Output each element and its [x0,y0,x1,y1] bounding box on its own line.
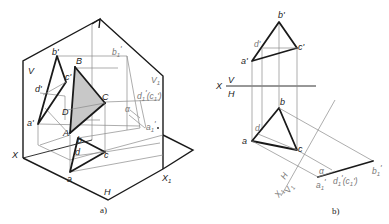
label-H-b: H [228,89,235,99]
label-b-prime-b: b' [278,10,285,20]
label-d-b: d [255,123,260,133]
label-d-prime-b: d' [254,39,261,49]
label-c-prime: c' [65,72,72,82]
label-V-b: V [228,75,235,85]
label-b: b [77,135,82,145]
label-X1: X1 [161,173,171,184]
label-X-b: X [215,81,223,91]
label-C: C [102,92,109,102]
label-d-prime: d' [35,84,42,94]
label-B: B [76,56,82,66]
label-b-prime: b' [52,47,59,57]
label-a: a [67,174,72,184]
label-V1: V1 [151,75,160,86]
label-b-b: b [280,97,285,107]
caption-b: b) [332,206,340,216]
label-a1-prime-b: a1' [316,177,326,191]
projection-diagram: V b' B c' d' C a' D A b d c a X H X1 V1 … [0,0,389,224]
v1-edge-line [318,161,373,177]
label-c: c [104,150,109,160]
label-d1c1: d1'(c1') [137,88,162,102]
label-A: A [62,128,69,138]
label-a-b: a [242,136,247,146]
label-a1-prime: a1' [146,119,156,133]
caption-a: a) [100,205,107,215]
triangle-abc-face [70,67,105,133]
label-v-plane: V [28,66,35,76]
plane-corner [92,19,100,28]
label-a-prime: a' [27,118,34,128]
proj-a1 [252,141,318,177]
label-H-x1: H [278,170,290,181]
figure-a: V b' B c' d' C a' D A b d c a X H X1 V1 … [11,19,193,215]
label-H: H [104,187,111,197]
label-a-prime-b: a' [241,56,248,66]
label-d1c1-b: d1'(c1') [333,173,358,187]
label-b1-prime-b: b1' [372,163,382,177]
label-D: D [62,107,69,117]
label-c-b: c [298,144,303,154]
figure-b: b' d' c' a' X V H b d a c H X1 V1 α a1' … [215,10,382,216]
label-c-prime-b: c' [298,42,305,52]
label-alpha: α [125,104,131,114]
label-X: X [11,150,19,160]
